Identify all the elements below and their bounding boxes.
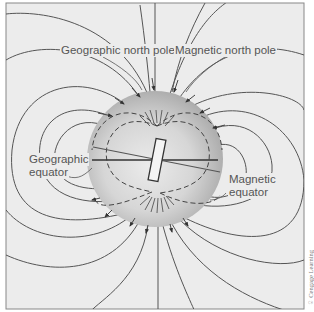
label-magnetic-equator-1: Magnetic — [228, 173, 277, 186]
label-magnetic-north-pole: Magnetic north pole — [174, 44, 277, 57]
label-geographic-equator-1: Geographic — [28, 153, 89, 166]
copyright-credit: © Cengage Learning — [307, 250, 314, 306]
magnetic-field-diagram: Geographic north pole Magnetic north pol… — [0, 0, 314, 312]
label-magnetic-equator-2: equator — [228, 186, 269, 199]
label-geographic-equator-2: equator — [28, 166, 69, 179]
label-geographic-north-pole: Geographic north pole — [60, 44, 176, 57]
